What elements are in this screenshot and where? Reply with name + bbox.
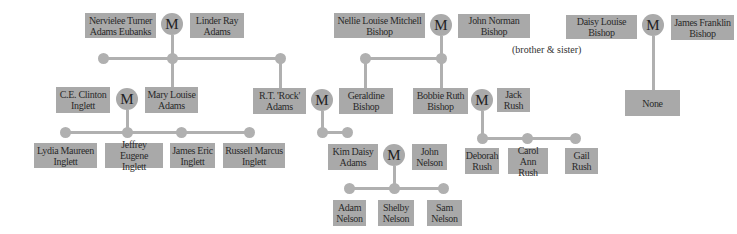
person-jeffrey: Jeffrey Eugene Inglett bbox=[105, 143, 163, 168]
marriage-icon: M bbox=[311, 89, 333, 111]
person-adam: Adam Nelson bbox=[333, 200, 366, 226]
marriage-icon: M bbox=[383, 144, 405, 166]
person-nervielee: Nervielee Turner Adams Eubanks bbox=[85, 13, 156, 38]
person-jack-rush: Jack Rush bbox=[497, 88, 530, 112]
marriage-icon: M bbox=[430, 14, 452, 36]
person-john-norman: John Norman Bishop bbox=[458, 14, 530, 38]
person-gail: Gail Rush bbox=[565, 148, 598, 174]
person-linder: Linder Ray Adams bbox=[190, 13, 244, 38]
person-james-franklin: James Franklin Bishop bbox=[671, 15, 734, 40]
person-john-nelson: John Nelson bbox=[412, 144, 447, 170]
person-sam: Sam Nelson bbox=[427, 200, 462, 226]
person-nellie: Nellie Louise Mitchell Bishop bbox=[334, 13, 425, 38]
marriage-icon: M bbox=[471, 89, 493, 111]
marriage-icon: M bbox=[116, 88, 138, 110]
person-rt-rock: R.T. 'Rock' Adams bbox=[253, 88, 306, 114]
person-daisy-louise: Daisy Louise Bishop bbox=[566, 15, 637, 39]
person-bobbie-ruth: Bobbie Ruth Bishop bbox=[413, 88, 468, 114]
marriage-icon: M bbox=[161, 13, 183, 35]
person-mary-louise: Mary Louise Adams bbox=[145, 87, 198, 113]
person-kim-daisy: Kim Daisy Adams bbox=[328, 144, 378, 170]
sibling-note: (brother & sister) bbox=[512, 44, 581, 55]
person-russell: Russell Marcus Inglett bbox=[223, 143, 285, 168]
person-lydia: Lydia Maureen Inglett bbox=[34, 143, 97, 168]
person-geraldine: Geraldine Bishop bbox=[339, 88, 393, 114]
person-james-eric: James Eric Inglett bbox=[170, 143, 215, 168]
person-none: None bbox=[625, 90, 680, 116]
marriage-icon: M bbox=[642, 14, 664, 36]
person-ce-clinton: C.E. Clinton Inglett bbox=[56, 87, 110, 113]
person-carol-ann: Carol Ann Rush bbox=[508, 148, 548, 174]
person-deborah: Deborah Rush bbox=[465, 148, 499, 174]
person-shelby: Shelby Nelson bbox=[378, 200, 414, 226]
